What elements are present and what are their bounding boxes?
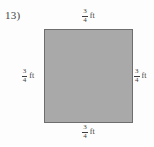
fraction-denominator: 4: [82, 133, 88, 140]
fraction-right: 3 4: [134, 68, 140, 84]
side-label-left: 3 4 ft: [13, 68, 43, 84]
fraction-denominator: 4: [82, 17, 88, 24]
fraction-numerator: 3: [82, 124, 88, 131]
fraction-numerator: 3: [134, 68, 140, 75]
side-label-bottom: 3 4 ft: [44, 124, 133, 140]
unit-label-left: ft: [29, 72, 34, 80]
fraction-top: 3 4: [82, 8, 88, 24]
fraction-left: 3 4: [22, 68, 28, 84]
worksheet-problem-figure: 13) 3 4 ft 3 4 ft 3 4 ft 3 4: [0, 0, 154, 147]
fraction-denominator: 4: [22, 77, 28, 84]
fraction-numerator: 3: [82, 8, 88, 15]
fraction-bottom: 3 4: [82, 124, 88, 140]
square-shape: [44, 29, 133, 123]
unit-label-top: ft: [90, 12, 95, 20]
side-label-right: 3 4 ft: [134, 68, 154, 84]
fraction-denominator: 4: [134, 77, 140, 84]
fraction-numerator: 3: [22, 68, 28, 75]
side-label-top: 3 4 ft: [44, 8, 133, 24]
unit-label-bottom: ft: [90, 128, 95, 136]
unit-label-right: ft: [142, 72, 147, 80]
problem-number: 13): [5, 9, 20, 22]
